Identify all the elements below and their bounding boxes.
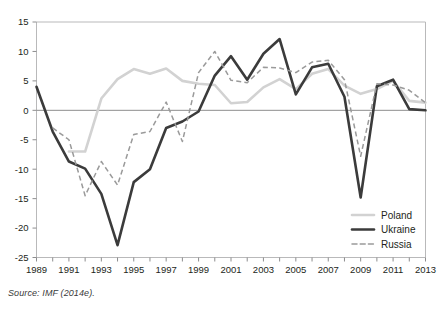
chart-legend: PolandUkraineRussia xyxy=(347,204,423,255)
x-tick-label: 1991 xyxy=(58,264,79,275)
y-tick-label: -20 xyxy=(15,222,29,233)
source-note: Source: IMF (2014e). xyxy=(8,288,95,298)
line-chart: 151050-5-10-15-20-25 1989199119931995199… xyxy=(0,0,440,309)
y-axis-tick-labels: 151050-5-10-15-20-25 xyxy=(15,16,29,263)
x-tick-label: 2011 xyxy=(383,264,403,275)
x-tick-label: 1995 xyxy=(123,264,144,275)
y-tick-label: -25 xyxy=(15,252,29,263)
y-tick-label: -10 xyxy=(15,164,29,175)
legend-label-ukraine: Ukraine xyxy=(381,224,416,235)
x-tick-label: 2005 xyxy=(285,264,306,275)
x-tick-label: 2013 xyxy=(415,264,436,275)
x-tick-label: 1989 xyxy=(26,264,47,275)
figure-container: 151050-5-10-15-20-25 1989199119931995199… xyxy=(0,0,440,309)
legend-label-poland: Poland xyxy=(381,210,412,221)
legend-label-russia: Russia xyxy=(381,239,412,250)
x-tick-label: 2003 xyxy=(253,264,274,275)
x-axis-tick-labels: 1989199119931995199719992001200320052007… xyxy=(26,264,436,275)
y-tick-label: 5 xyxy=(23,75,28,86)
y-tick-label: 15 xyxy=(18,16,29,27)
y-tick-label: 10 xyxy=(18,46,29,57)
y-tick-label: -5 xyxy=(20,134,28,145)
x-tick-label: 2001 xyxy=(220,264,241,275)
x-tick-label: 1999 xyxy=(188,264,209,275)
x-tick-label: 1997 xyxy=(156,264,177,275)
x-tick-label: 2009 xyxy=(350,264,371,275)
series-line-russia xyxy=(53,51,426,195)
y-tick-label: 0 xyxy=(23,105,28,116)
x-tick-label: 2007 xyxy=(318,264,339,275)
x-tick-label: 1993 xyxy=(91,264,112,275)
y-tick-label: -15 xyxy=(15,193,29,204)
